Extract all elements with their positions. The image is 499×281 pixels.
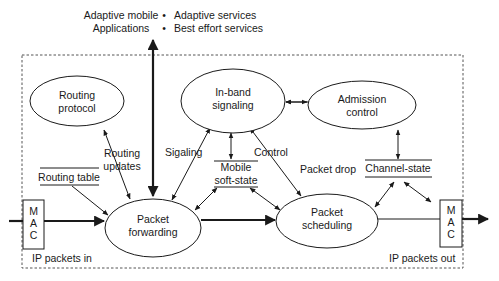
applications-label-line2: Applications (93, 22, 150, 34)
applications-label: Adaptive mobile Applications (84, 9, 159, 34)
control-arrow (250, 128, 301, 196)
store-label: Routing table (38, 171, 100, 183)
softstate-forwarding-arrow (195, 188, 217, 210)
channel-scheduling-arrow (375, 182, 394, 207)
mac-letter: C (447, 228, 455, 240)
softstate-scheduling-arrow (250, 188, 280, 210)
bullet-icon: • (162, 9, 166, 21)
bullet-icon: • (162, 22, 166, 34)
node-label: Routing (59, 89, 95, 101)
mac-letter: C (30, 229, 38, 241)
routing-table-arrow (72, 186, 108, 215)
node-admission-control: Admission control (308, 81, 416, 129)
edge-label-routing-updates: updates (103, 160, 140, 172)
service-item-best-effort: Best effort services (174, 22, 263, 34)
node-label: scheduling (302, 219, 352, 231)
mac-letter: A (30, 217, 37, 229)
services-list: • • Adaptive services Best effort servic… (162, 9, 263, 34)
edge-label-routing-updates: Routing (104, 147, 140, 159)
node-packet-forwarding: Packet forwarding (105, 199, 201, 257)
architecture-diagram: Adaptive mobile Applications • • Adaptiv… (0, 0, 499, 281)
node-routing-protocol: Routing protocol (30, 76, 124, 126)
store-label: soft-state (214, 174, 257, 186)
store-routing-table: Routing table (38, 168, 100, 185)
edge-label-control: Control (254, 146, 288, 158)
node-label: Packet (311, 206, 343, 218)
node-label: forwarding (128, 226, 177, 238)
store-label: Mobile (221, 161, 252, 173)
node-label: Packet (137, 213, 169, 225)
ip-packets-in-label: IP packets in (32, 252, 92, 264)
edge-label-packet-drop: Packet drop (300, 163, 356, 175)
edge-label-signaling: Sigaling (165, 146, 203, 158)
service-item-adaptive: Adaptive services (174, 9, 256, 21)
applications-label-line1: Adaptive mobile (84, 9, 159, 21)
node-inband-signaling: In-band signaling (181, 69, 285, 133)
node-label: Admission (338, 93, 387, 105)
node-label: In-band (215, 86, 251, 98)
signaling-arrow (172, 128, 210, 200)
mac-letter: A (447, 216, 454, 228)
mac-in-box: M A C (23, 200, 44, 249)
mac-out-box: M A C (440, 200, 462, 247)
channel-mac-arrow (404, 182, 431, 202)
store-mobile-soft-state: Mobile soft-state (214, 161, 258, 187)
store-channel-state: Channel-state (365, 160, 432, 177)
node-label: control (346, 106, 378, 118)
node-packet-scheduling: Packet scheduling (276, 194, 378, 248)
mac-letter: M (29, 205, 38, 217)
store-label: Channel-state (365, 162, 431, 174)
mac-letter: M (447, 204, 456, 216)
ip-packets-out-label: IP packets out (389, 252, 455, 264)
node-label: signaling (212, 99, 254, 111)
node-label: protocol (58, 102, 95, 114)
